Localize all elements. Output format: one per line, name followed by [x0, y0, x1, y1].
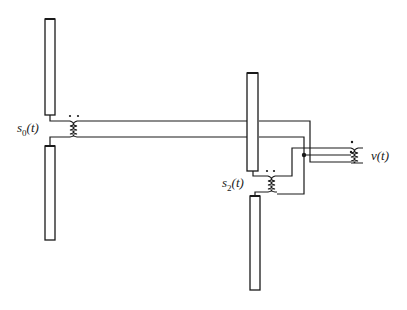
line-s0-bottom-right — [259, 137, 304, 194]
label-output: v(t) — [371, 148, 389, 164]
left-dipole-upper-arm — [45, 19, 55, 115]
transformer-s0-icon — [69, 115, 79, 137]
s0-feed-lower — [50, 137, 70, 146]
right-dipole-lower-arm — [250, 196, 260, 290]
transformer-s2-icon — [266, 170, 275, 192]
line-s0-top-right — [259, 121, 310, 158]
antenna-diagram — [0, 0, 407, 310]
transformer-output-icon — [350, 141, 363, 163]
label-s2: s2(t) — [222, 175, 244, 193]
s0-feed-upper — [50, 115, 70, 121]
right-dipole-upper-arm — [247, 73, 258, 171]
line-out-bottom — [310, 158, 351, 162]
label-s0: s0(t) — [17, 120, 39, 138]
left-dipole-lower-arm — [45, 146, 55, 240]
s2-feed-upper — [253, 171, 268, 176]
